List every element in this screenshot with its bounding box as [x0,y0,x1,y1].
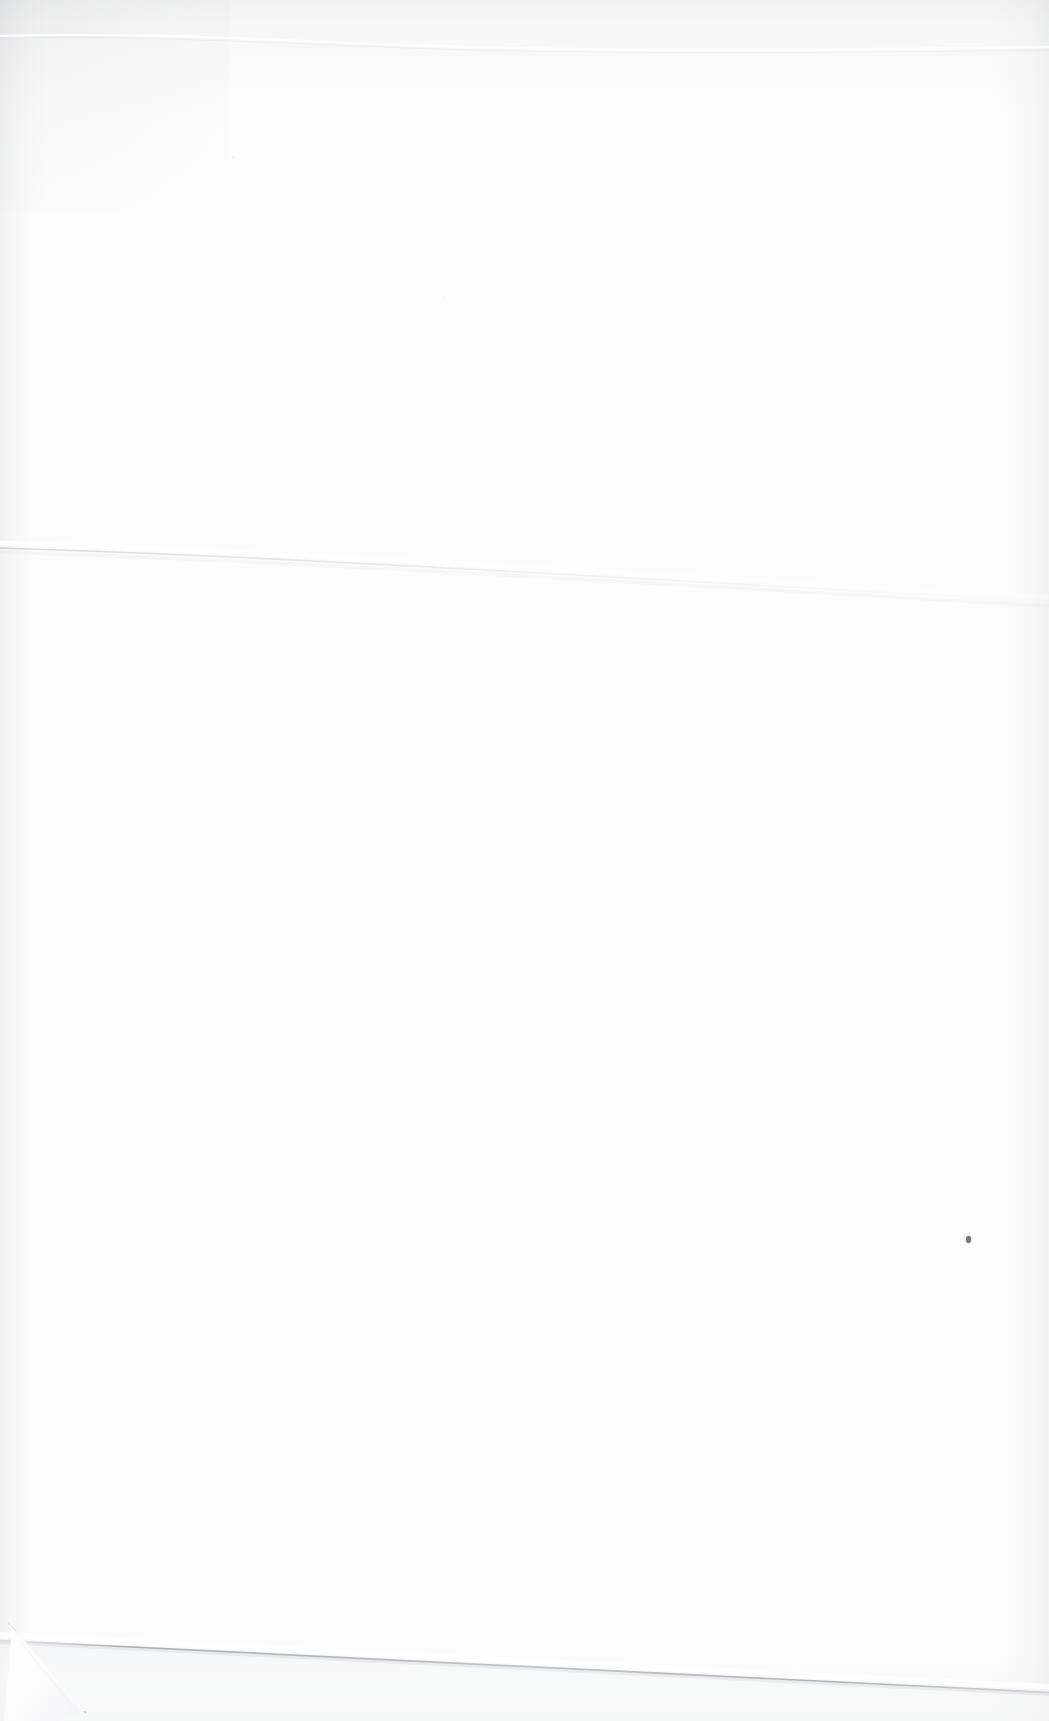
scanned-page [0,0,1049,1721]
paper-surface [0,0,1049,1721]
